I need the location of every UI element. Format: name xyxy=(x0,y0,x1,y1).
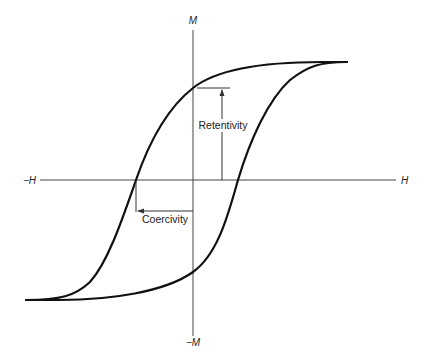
coercivity-label: Coercivity xyxy=(142,213,189,225)
retentivity-arrowhead xyxy=(220,89,225,96)
h-axis-label-positive: H xyxy=(401,175,409,186)
hysteresis-lower-branch xyxy=(26,62,347,300)
hysteresis-diagram: M −M −H H Retentivity Coercivity xyxy=(0,0,427,363)
h-axis-label-negative: −H xyxy=(23,175,37,186)
retentivity-label: Retentivity xyxy=(198,119,248,131)
m-axis-label-negative: −M xyxy=(186,337,201,348)
m-axis-label-positive: M xyxy=(189,15,198,26)
hysteresis-upper-branch xyxy=(26,62,347,300)
